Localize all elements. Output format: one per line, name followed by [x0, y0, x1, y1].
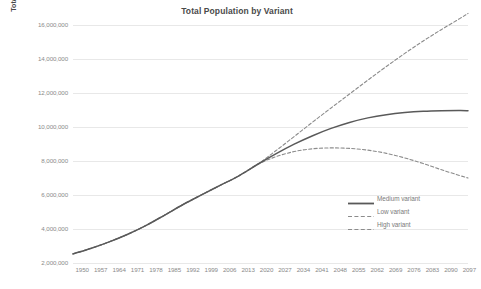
legend-item-label: Low variant	[377, 208, 409, 215]
y-axis-tick-label: 2,000,000	[22, 259, 68, 266]
legend-item[interactable]: Medium variant	[348, 192, 420, 205]
y-axis-tick-label: 6,000,000	[22, 191, 68, 198]
legend-item-label: High variant	[377, 221, 411, 228]
x-axis-tick-label: 2097	[456, 266, 481, 273]
y-axis-tick-label: 10,000,000	[22, 123, 68, 130]
y-axis-tick-label: 14,000,000	[22, 55, 68, 62]
legend-item[interactable]: High variant	[348, 218, 420, 231]
legend-item-label: Medium variant	[377, 195, 420, 202]
y-axis-tick-label: 8,000,000	[22, 157, 68, 164]
y-axis-tick-label: 12,000,000	[22, 89, 68, 96]
legend-swatch-icon	[348, 220, 374, 229]
legend-item[interactable]: Low variant	[348, 205, 420, 218]
legend-swatch-icon	[348, 194, 374, 203]
y-axis-tick-label: 4,000,000	[22, 225, 68, 232]
series-line	[73, 111, 468, 254]
legend-swatch-icon	[348, 207, 374, 216]
chart-legend: Medium variantLow variantHigh variant	[348, 192, 420, 231]
y-axis-tick-label: 16,000,000	[22, 21, 68, 28]
